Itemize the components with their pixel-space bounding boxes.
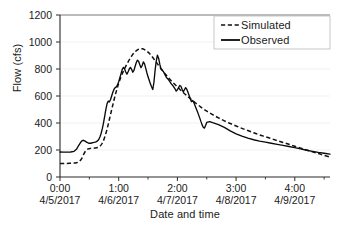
x-tick-label: 2:004/7/2017 <box>157 182 198 206</box>
x-tick-label: 3:004/8/2017 <box>216 182 257 206</box>
x-tick-label: 1:004/6/2017 <box>98 182 139 206</box>
x-tick-date: 4/9/2017 <box>274 194 315 206</box>
series-line-observed <box>60 55 330 154</box>
y-tick-marks <box>56 15 60 177</box>
x-tick-time: 1:00 <box>98 182 139 194</box>
x-tick-label: 0:004/5/2017 <box>40 182 81 206</box>
flow-hydrograph-chart: Flow (cfs) 1200 1000 800 600 400 200 0 S… <box>0 0 337 228</box>
x-tick-time: 3:00 <box>216 182 257 194</box>
x-tick-marks <box>60 177 324 181</box>
x-tick-time: 4:00 <box>274 182 315 194</box>
x-tick-time: 2:00 <box>157 182 198 194</box>
x-tick-label: 4:004/9/2017 <box>274 182 315 206</box>
x-tick-date: 4/8/2017 <box>216 194 257 206</box>
x-tick-time: 0:00 <box>40 182 81 194</box>
x-axis-title: Date and time <box>40 208 330 220</box>
legend-label-simulated: Simulated <box>241 19 291 31</box>
x-tick-date: 4/6/2017 <box>98 194 139 206</box>
legend-label-observed: Observed <box>241 34 290 46</box>
x-tick-date: 4/7/2017 <box>157 194 198 206</box>
x-tick-date: 4/5/2017 <box>40 194 81 206</box>
